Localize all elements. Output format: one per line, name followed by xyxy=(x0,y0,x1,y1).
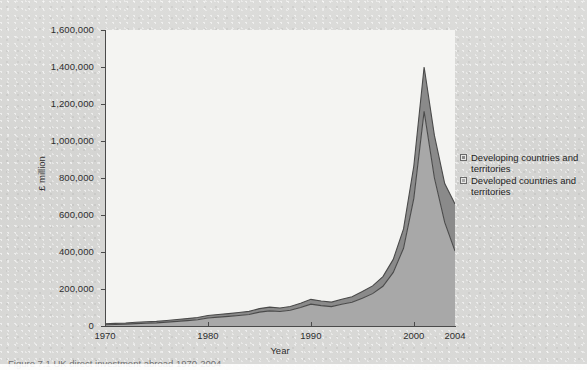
y-tick-label: 0 xyxy=(22,321,94,331)
y-tick-label: 800,000 xyxy=(22,173,94,183)
figure-area-chart: 1,600,0001,400,0001,200,0001,000,000800,… xyxy=(0,0,587,352)
y-axis-line xyxy=(105,30,106,327)
x-tick-mark xyxy=(414,322,415,327)
legend-label-developing: Developing countries and territories xyxy=(471,152,584,174)
y-tick-mark xyxy=(101,178,105,179)
y-tick-mark xyxy=(101,30,105,31)
chart-legend: Developing countries and territories Dev… xyxy=(460,152,584,198)
y-tick-label: 600,000 xyxy=(22,210,94,220)
y-tick-mark xyxy=(101,289,105,290)
legend-swatch-developing-icon xyxy=(460,154,467,161)
y-tick-label: 1,000,000 xyxy=(22,136,94,146)
plot-area xyxy=(105,30,455,326)
y-tick-mark xyxy=(101,67,105,68)
y-tick-label: 200,000 xyxy=(22,284,94,294)
x-tick-mark xyxy=(208,322,209,327)
y-tick-label: 1,600,000 xyxy=(22,25,94,35)
x-axis-title: Year xyxy=(250,345,310,356)
legend-item-developing: Developing countries and territories xyxy=(460,152,584,174)
x-tick-label: 1970 xyxy=(75,331,135,341)
y-tick-mark xyxy=(101,141,105,142)
area-developed-countries xyxy=(105,111,455,326)
y-tick-mark xyxy=(101,104,105,105)
y-tick-label: 1,400,000 xyxy=(22,62,94,72)
x-axis-line xyxy=(105,326,456,327)
x-tick-label: 2004 xyxy=(425,331,485,341)
y-tick-mark xyxy=(101,215,105,216)
y-tick-mark xyxy=(101,252,105,253)
stacked-area-chart-svg xyxy=(105,30,455,326)
y-tick-label: 1,200,000 xyxy=(22,99,94,109)
legend-item-developed: Developed countries and territories xyxy=(460,175,584,197)
y-tick-label: 400,000 xyxy=(22,247,94,257)
x-tick-label: 1980 xyxy=(178,331,238,341)
x-tick-mark xyxy=(311,322,312,327)
y-tick-mark xyxy=(101,326,105,327)
y-axis-title: £ million xyxy=(36,129,47,219)
legend-label-developed: Developed countries and territories xyxy=(471,175,584,197)
page-bottom-clip xyxy=(0,364,587,370)
legend-swatch-developed-icon xyxy=(460,177,467,184)
x-tick-label: 1990 xyxy=(281,331,341,341)
